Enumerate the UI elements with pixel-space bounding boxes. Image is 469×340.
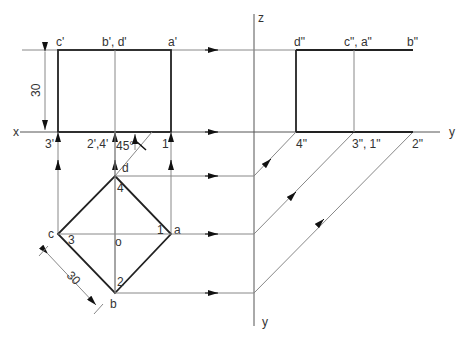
label-c-a-double: c", a"	[344, 35, 372, 49]
vertex-b: b	[110, 297, 117, 311]
label-2-4-prime: 2',4'	[87, 137, 108, 151]
label-a-prime: a'	[168, 35, 177, 49]
label-b-double: b"	[407, 35, 418, 49]
label-3-1-double: 3", 1"	[352, 137, 381, 151]
vertex-d: d	[122, 161, 129, 175]
vertex-a: a	[174, 223, 181, 237]
side-dimension-label: 30	[64, 268, 84, 288]
label-c-prime: c'	[56, 35, 64, 49]
side-view: d" c", a" b" 4" 3", 1" 2"	[294, 35, 423, 151]
angle-label: 45°	[116, 139, 134, 153]
top-view: d a c b o 1 2 3 4 30	[39, 132, 181, 314]
label-d-double: d"	[294, 35, 305, 49]
label-2-double: 2"	[412, 137, 423, 151]
point-3: 3	[68, 233, 75, 247]
horizontal-projectors	[115, 50, 413, 293]
label-1-prime: 1'	[162, 137, 171, 151]
center-o: o	[115, 235, 122, 249]
label-b-d-prime: b', d'	[102, 35, 127, 49]
point-4: 4	[117, 181, 124, 195]
label-3-prime: 3'	[45, 137, 54, 151]
point-2: 2	[117, 275, 124, 289]
vertex-c: c	[48, 227, 54, 241]
x-axis-label: x	[13, 125, 19, 139]
z-axis-label: z	[258, 11, 264, 25]
height-dimension-label: 30	[29, 83, 43, 97]
y-axis-label-right: y	[449, 125, 455, 139]
y-axis-label-bottom: y	[262, 315, 268, 329]
projection-diagram: x y z y 30 c' b', d' a' 3' 2',4' 1' 45°	[0, 0, 469, 340]
point-1: 1	[157, 223, 164, 237]
label-4-double: 4"	[296, 137, 307, 151]
